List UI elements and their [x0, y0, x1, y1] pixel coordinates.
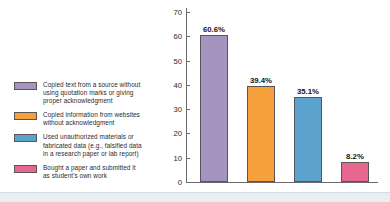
- bar: 8.2%: [341, 162, 369, 182]
- y-tick-label: 60: [174, 32, 182, 41]
- page-footer-band: [0, 193, 390, 202]
- y-tick-label: 70: [174, 8, 182, 17]
- y-tick-mark: [186, 12, 190, 13]
- bar-value-label: 8.2%: [346, 152, 364, 161]
- legend-item: Used unauthorized materials or fabricate…: [14, 133, 174, 157]
- legend-swatch-purple: [14, 82, 37, 90]
- y-tick-label: 20: [174, 129, 182, 138]
- y-tick-mark: [186, 158, 190, 159]
- y-tick-label: 40: [174, 80, 182, 89]
- legend-swatch-blue: [14, 134, 37, 142]
- legend-item-label: Copied information from websites without…: [43, 111, 140, 127]
- bar-chart-figure: Copied text from a source without using …: [0, 0, 390, 202]
- legend-item: Bought a paper and submitted it as stude…: [14, 164, 174, 180]
- plot-area: 010203040506070 60.6%39.4%35.1%8.2%: [186, 8, 382, 186]
- legend-item-label: Used unauthorized materials or fabricate…: [43, 133, 142, 157]
- y-tick-label: 50: [174, 56, 182, 65]
- y-tick-mark: [186, 85, 190, 86]
- legend-item: Copied information from websites without…: [14, 111, 174, 127]
- legend-swatch-pink: [14, 165, 37, 173]
- legend-item-label: Bought a paper and submitted it as stude…: [43, 164, 136, 180]
- legend-item: Copied text from a source without using …: [14, 81, 174, 105]
- y-tick-mark: [186, 36, 190, 37]
- y-tick-label: 0: [178, 178, 182, 187]
- y-tick-mark: [186, 61, 190, 62]
- bar: 35.1%: [294, 97, 322, 182]
- bar-value-label: 60.6%: [203, 25, 225, 34]
- bar-value-label: 35.1%: [297, 87, 319, 96]
- y-tick-label: 10: [174, 153, 182, 162]
- y-tick-mark: [186, 109, 190, 110]
- y-tick-mark: [186, 182, 190, 183]
- bar-value-label: 39.4%: [250, 76, 272, 85]
- y-tick-label: 30: [174, 105, 182, 114]
- legend-item-label: Copied text from a source without using …: [43, 81, 140, 105]
- y-tick-mark: [186, 133, 190, 134]
- x-axis-line: [186, 182, 378, 183]
- bar: 39.4%: [247, 86, 275, 182]
- legend-swatch-orange: [14, 112, 37, 120]
- bar: 60.6%: [200, 35, 228, 182]
- chart-legend: Copied text from a source without using …: [14, 81, 174, 186]
